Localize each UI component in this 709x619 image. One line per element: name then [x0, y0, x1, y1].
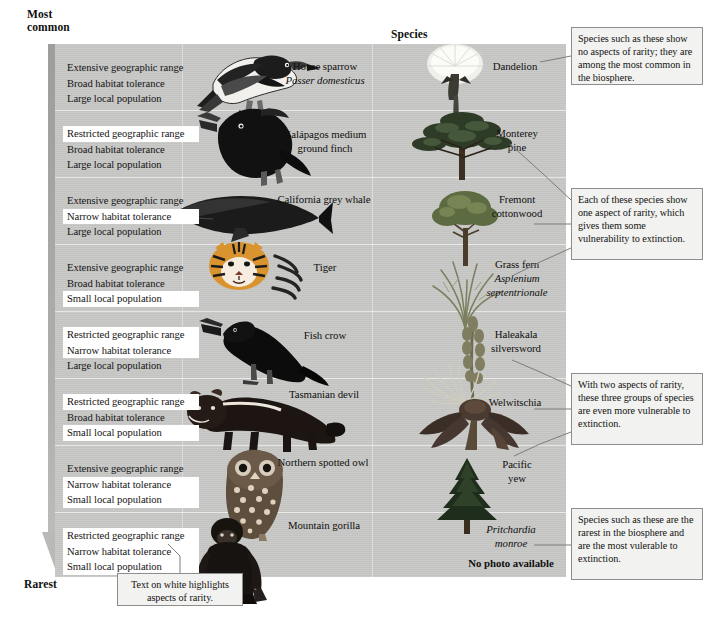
rarity-matrix-panel: Extensive geographic range Broad habitat… [55, 44, 566, 577]
tiger-illustration [203, 240, 315, 308]
species-label-spotted-owl: Northern spotted owl [255, 455, 391, 469]
attribute-text-highlighted: Narrow habitat tolerance [63, 477, 199, 493]
rarity-attributes-row-6: Restricted geographic range Broad habita… [63, 394, 199, 441]
species-label-haleakala-silversword: Haleakala silversword [467, 327, 565, 355]
attribute-text-highlighted: Narrow habitat tolerance [63, 544, 199, 560]
attribute-text-highlighted: Small local population [63, 291, 199, 307]
rarity-attributes-row-7: Extensive geographic range Narrow habita… [63, 461, 199, 508]
callout-two-aspects-of-rarity: With two aspects of rarity, these three … [571, 373, 703, 445]
rarity-attributes-row-4: Extensive geographic range Broad habitat… [63, 260, 199, 307]
attribute-text-highlighted: Small local population [63, 425, 199, 441]
species-label-monterey-pine: Monterey pine [477, 126, 557, 154]
attribute-text: Extensive geographic range [63, 260, 199, 276]
attribute-text-highlighted: Small local population [63, 492, 199, 508]
attribute-text: Large local population [63, 157, 199, 173]
species-label-tiger: Tiger [280, 260, 370, 274]
rarity-attributes-row-2: Restricted geographic range Broad habita… [63, 126, 199, 173]
attribute-text-highlighted: Restricted geographic range [63, 126, 199, 142]
attribute-text: Extensive geographic range [63, 461, 199, 477]
callout-white-highlight-legend: Text on white highlights aspects of rari… [117, 573, 243, 606]
attribute-text-highlighted: Narrow habitat tolerance [63, 343, 199, 359]
no-photo-available-text: No photo available [455, 556, 567, 570]
species-label-tasmanian-devil: Tasmanian devil [263, 387, 385, 401]
most-common-line1: Most [27, 8, 52, 20]
attribute-text-highlighted: Restricted geographic range [63, 394, 199, 410]
attribute-text-highlighted: Narrow habitat tolerance [63, 209, 199, 225]
attribute-text: Broad habitat tolerance [63, 76, 199, 92]
species-label-mountain-gorilla: Mountain gorilla [265, 518, 383, 532]
species-label-pacific-yew: Pacific yew [479, 457, 555, 485]
attribute-text: Broad habitat tolerance [63, 142, 199, 158]
attribute-text: Broad habitat tolerance [63, 410, 199, 426]
rarity-attributes-row-8: Restricted geographic range Narrow habit… [63, 528, 199, 575]
rarest-axis-label: Rarest [24, 578, 57, 591]
attribute-text: Extensive geographic range [63, 193, 199, 209]
most-common-axis-label: Most common [27, 8, 97, 34]
species-label-house-sparrow: House sparrow Passer domesticus [270, 59, 380, 87]
attribute-text: Large local population [63, 224, 199, 240]
attribute-text: Extensive geographic range [63, 60, 199, 76]
attribute-text: Large local population [63, 358, 199, 374]
species-label-welwitschia: Welwitschia [463, 395, 567, 409]
most-common-line2: common [27, 21, 70, 33]
species-label-grey-whale: California grey whale [260, 192, 388, 206]
species-label-pritchardia: Pritchardia monroe No photo available [455, 522, 567, 570]
species-label-fish-crow: Fish crow [275, 328, 375, 342]
callout-no-aspects-of-rarity: Species such as these show no aspects of… [571, 27, 703, 85]
attribute-text-highlighted: Restricted geographic range [63, 528, 199, 544]
rarity-attributes-row-3: Extensive geographic range Narrow habita… [63, 193, 199, 240]
callout-one-aspect-of-rarity: Each of these species show one aspect of… [571, 188, 703, 260]
species-label-dandelion: Dandelion [473, 59, 557, 73]
species-label-grass-fern: Grass fern Asplenium septentrionale [467, 257, 567, 299]
rarity-attributes-row-1: Extensive geographic range Broad habitat… [63, 60, 199, 107]
attribute-text: Large local population [63, 91, 199, 107]
attribute-text-highlighted: Restricted geographic range [63, 327, 199, 343]
crow-illustration [185, 314, 329, 388]
callout-rarest-in-biosphere: Species such as these are the rarest in … [571, 508, 703, 580]
rarity-attributes-row-5: Restricted geographic range Narrow habit… [63, 327, 199, 374]
species-label-fremont-cottonwood: Fremont cottonwood [469, 192, 565, 220]
species-label-galapagos-finch: Galápagos medium ground finch [267, 127, 383, 155]
attribute-text: Broad habitat tolerance [63, 276, 199, 292]
